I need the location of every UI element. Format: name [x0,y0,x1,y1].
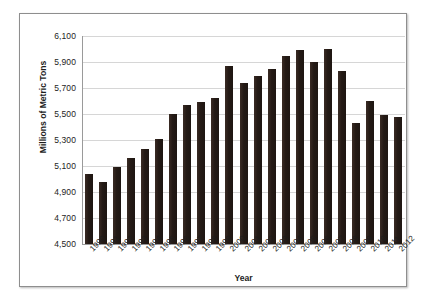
gridline-6100 [82,36,405,37]
bar-2004 [282,56,290,245]
y-tick-label: 5,500 [30,109,76,119]
y-tick-label: 4,700 [30,213,76,223]
bar-1995 [155,139,163,244]
bar-1990 [85,174,93,244]
bar-1992 [113,167,121,244]
bar-2009 [352,123,360,244]
y-axis-line [82,36,83,245]
bar-1993 [127,158,135,244]
bar-1999 [211,98,219,244]
bar-2005 [296,50,304,244]
bar-1997 [183,105,191,244]
bar-2000 [225,66,233,244]
bar-2012 [394,117,402,244]
y-tick-label: 5,700 [30,83,76,93]
y-tick-label: 5,100 [30,161,76,171]
bar-1998 [197,102,205,244]
bar-2008 [338,71,346,244]
y-axis-title: Millions of Metric Tons [38,37,48,177]
y-tick-label: 4,900 [30,187,76,197]
bar-2003 [268,69,276,245]
y-tick-label: 4,500 [30,239,76,249]
bar-2011 [380,115,388,244]
bar-2001 [240,83,248,244]
y-tick-label: 5,300 [30,135,76,145]
gridline-5900 [82,62,405,63]
x-axis-title: Year [82,273,405,283]
bar-1996 [169,114,177,244]
bar-1994 [141,149,149,244]
y-axis-tick-labels: 6,1005,9005,7005,5005,3005,1004,9004,700… [28,14,76,286]
bar-2010 [366,101,374,244]
bar-2002 [254,76,262,244]
y-tick-label: 6,100 [30,31,76,41]
bar-2007 [324,49,332,244]
plot-area [82,23,405,244]
y-tick-label: 5,900 [30,57,76,67]
chart-frame: 6,1005,9005,7005,5005,3005,1004,9004,700… [19,13,407,287]
bar-2006 [310,62,318,244]
